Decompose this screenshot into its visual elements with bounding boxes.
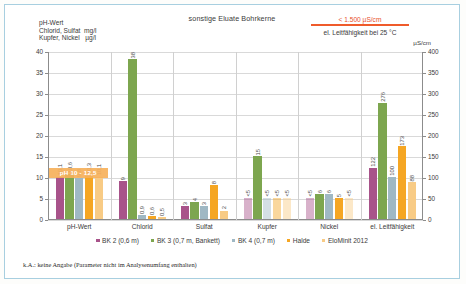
bar-value-label: 4 (192, 198, 198, 201)
x-axis-category-label: Kupfer (236, 223, 299, 230)
bar[interactable] (190, 202, 198, 219)
right-axis-unit: µS/cm (365, 39, 431, 46)
x-axis-category-label: Chlorid (111, 223, 174, 230)
y-tick-label-left: 5 (21, 195, 43, 202)
bar[interactable] (119, 181, 127, 219)
bar[interactable] (148, 216, 156, 219)
y-tick-label-left: 15 (21, 153, 43, 160)
legend-swatch-icon (96, 239, 99, 242)
y-tick-label-right: 0 (428, 216, 452, 223)
bar-group: 10,110,69,810,310,1 (48, 52, 111, 219)
bar[interactable] (263, 198, 271, 219)
bar-value-label: 5 (336, 194, 342, 197)
bar[interactable] (158, 217, 166, 219)
bar-value-label: 122 (370, 157, 376, 167)
legend-item[interactable]: BK 2 (0,6 m) (96, 237, 139, 244)
bar-group: 12227610017388 (361, 52, 424, 219)
bar-value-label: 100 (389, 166, 395, 176)
bar[interactable] (65, 174, 73, 219)
legend-label: BK 3 (0,7 m, Bankett) (157, 237, 220, 244)
plot-area: 0055010100151502020025250303003535040400… (48, 52, 423, 220)
legend-swatch-icon (232, 239, 235, 242)
bar-value-label: <5 (307, 190, 313, 197)
bar-value-label: 0,5 (159, 208, 165, 216)
bar[interactable] (388, 177, 396, 219)
bar-value-label: 9 (120, 177, 126, 180)
bar[interactable] (244, 198, 252, 219)
bar-value-label: <5 (274, 190, 280, 197)
bar-value-label: 88 (409, 175, 415, 181)
y-tick-label-right: 150 (428, 153, 452, 160)
legend-swatch-icon (151, 239, 154, 242)
y-tick-mark-left (45, 220, 48, 221)
chart-legend: BK 2 (0,6 m)BK 3 (0,7 m, Bankett)BK 4 (0… (5, 237, 459, 244)
bar[interactable] (369, 168, 377, 219)
bar[interactable] (181, 206, 189, 219)
bar-value-label: 8 (211, 181, 217, 184)
bar[interactable] (200, 206, 208, 219)
bar[interactable] (378, 103, 386, 219)
bar-value-label: <5 (284, 190, 290, 197)
y-tick-label-right: 300 (428, 90, 452, 97)
y-tick-label-right: 50 (428, 195, 452, 202)
y-tick-label-left: 35 (21, 69, 43, 76)
legend-item[interactable]: EloMinit 2012 (322, 237, 368, 244)
bar[interactable] (128, 59, 136, 219)
bar[interactable] (283, 198, 291, 219)
y-tick-label-left: 0 (21, 216, 43, 223)
bar[interactable] (85, 176, 93, 219)
legend-label: Halde (293, 237, 310, 244)
bar-value-label: 38 (130, 52, 136, 58)
bar-value-label: 3 (201, 202, 207, 205)
gridline (48, 220, 423, 221)
y-tick-label-right: 400 (428, 48, 452, 55)
y-tick-label-left: 25 (21, 111, 43, 118)
legend-label: EloMinit 2012 (328, 237, 368, 244)
bar-value-label: 6 (326, 190, 332, 193)
legend-swatch-icon (322, 239, 325, 242)
bar-group: 34382 (173, 52, 236, 219)
y-tick-label-right: 250 (428, 111, 452, 118)
bar[interactable] (273, 198, 281, 219)
y-tick-label-right: 350 (428, 69, 452, 76)
legend-item[interactable]: Halde (287, 237, 310, 244)
bar-group: <5665<5 (298, 52, 361, 219)
legend-item[interactable]: BK 3 (0,7 m, Bankett) (151, 237, 220, 244)
bar-value-label: 276 (380, 92, 386, 102)
bar[interactable] (345, 198, 353, 219)
bar-value-label: 173 (399, 136, 405, 146)
y-tick-label-right: 100 (428, 174, 452, 181)
bar-group: <515<5<5<5 (236, 52, 299, 219)
bar-value-label: 2 (221, 206, 227, 209)
bar[interactable] (95, 177, 103, 219)
bar[interactable] (75, 178, 83, 219)
bar-value-label: <5 (245, 190, 251, 197)
bar[interactable] (253, 156, 261, 219)
chart-page: sonstige Eluate Bohrkerne < 1.500 µS/cm … (0, 0, 466, 284)
bar[interactable] (56, 177, 64, 219)
bar[interactable] (138, 215, 146, 219)
footnote: k.A.: keine Angabe (Parameter nicht im A… (23, 261, 197, 268)
bar[interactable] (408, 182, 416, 219)
chart-frame: sonstige Eluate Bohrkerne < 1.500 µS/cm … (4, 4, 460, 279)
bar[interactable] (325, 194, 333, 219)
threshold-annotation-rule (311, 24, 409, 26)
bar[interactable] (398, 146, 406, 219)
x-axis-category-label: Sulfat (173, 223, 236, 230)
bar[interactable] (335, 198, 343, 219)
bar[interactable] (315, 194, 323, 219)
y-tick-label-left: 30 (21, 90, 43, 97)
bar-value-label: <5 (346, 190, 352, 197)
x-axis-category-label: el. Leitfähigkeit (361, 223, 424, 230)
bar-group: 9380,90,60,5 (111, 52, 174, 219)
y-tick-label-left: 20 (21, 132, 43, 139)
threshold-annotation-label: < 1.500 µS/cm (305, 16, 415, 23)
bar[interactable] (306, 198, 314, 219)
legend-item[interactable]: BK 4 (0,7 m) (232, 237, 275, 244)
bar[interactable] (220, 211, 228, 219)
bar[interactable] (210, 185, 218, 219)
y-tick-mark-right (423, 220, 426, 221)
bar-value-label: 0,9 (139, 206, 145, 214)
bar-value-label: 3 (182, 202, 188, 205)
legend-swatch-icon (287, 239, 290, 242)
